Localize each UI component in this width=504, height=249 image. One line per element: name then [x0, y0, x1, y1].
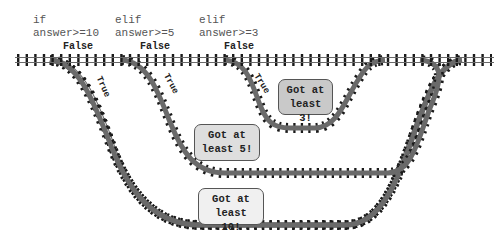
condition-if-10: if answer>=10 — [33, 14, 99, 40]
outcome-box-10: Got at least 10! — [198, 188, 264, 225]
condition-keyword: elif — [115, 14, 141, 26]
main-track — [15, 58, 494, 63]
outcome-line1: Got at — [203, 192, 259, 206]
outcome-line2: least 10! — [203, 206, 259, 234]
condition-expr: answer>=5 — [115, 27, 174, 39]
condition-keyword: if — [33, 14, 46, 26]
outcome-line2: least 3! — [283, 97, 328, 125]
condition-keyword: elif — [199, 14, 225, 26]
condition-elif-3: elif answer>=3 — [199, 14, 258, 40]
condition-expr: answer>=10 — [33, 27, 99, 39]
false-label-5: False — [140, 41, 170, 52]
railway-branching-diagram: if answer>=10 elif answer>=5 elif answer… — [0, 0, 504, 249]
false-label-10: False — [63, 41, 93, 52]
outcome-line1: Got at — [283, 83, 328, 97]
outcome-line2: least 5! — [199, 142, 255, 156]
outcome-box-5: Got at least 5! — [194, 124, 260, 161]
outcome-box-3: Got at least 3! — [278, 79, 333, 115]
condition-expr: answer>=3 — [199, 27, 258, 39]
false-label-3: False — [224, 41, 254, 52]
outcome-line1: Got at — [199, 128, 255, 142]
condition-elif-5: elif answer>=5 — [115, 14, 174, 40]
